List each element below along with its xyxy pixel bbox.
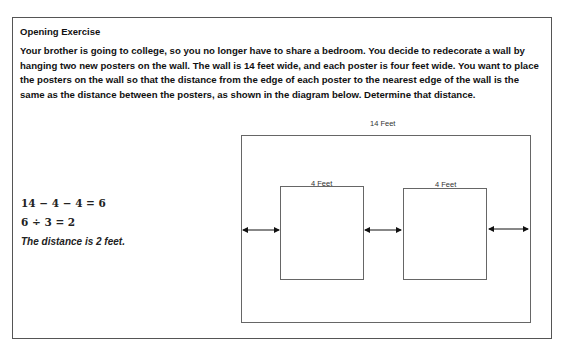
distance-arrows-icon [0,0,563,344]
